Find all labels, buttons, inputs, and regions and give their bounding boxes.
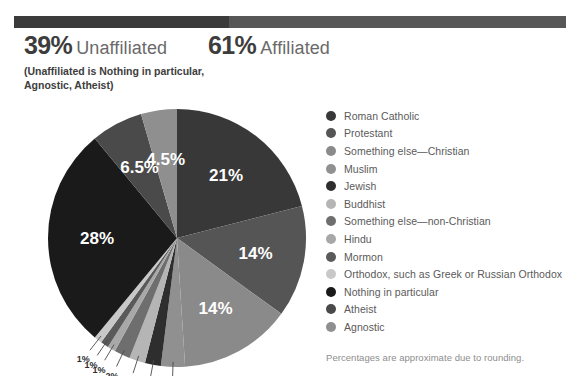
legend-swatch-icon	[326, 322, 336, 332]
chart-footnote: Percentages are approximate due to round…	[326, 352, 524, 363]
legend-item-label: Something else—Christian	[344, 145, 470, 157]
legend-swatch-icon	[326, 199, 336, 209]
stat-unaffiliated-percent: 39%	[24, 31, 72, 59]
legend-item-label: Protestant	[344, 127, 392, 139]
pie-slice-label: 21%	[209, 166, 243, 185]
legend-swatch-icon	[326, 269, 336, 279]
legend-swatch-icon	[326, 252, 336, 262]
legend-item-label: Buddhist	[344, 198, 385, 210]
stat-unaffiliated-label: Unaffiliated	[76, 38, 167, 58]
stat-affiliated-line: 61%Affiliated	[208, 33, 330, 58]
legend-item-label: Roman Catholic	[344, 110, 419, 122]
stat-unaffiliated-note: (Unaffiliated is Nothing in particular, …	[24, 64, 214, 92]
pie-slice-label: 28%	[80, 229, 114, 248]
header: 39%Unaffiliated (Unaffiliated is Nothing…	[0, 33, 583, 93]
summary-bar	[14, 16, 566, 28]
pie-slice-label: 4.5%	[146, 150, 185, 169]
pie-leader-line	[173, 362, 174, 376]
pie-slice-label: 14%	[198, 299, 232, 318]
legend-swatch-icon	[326, 146, 336, 156]
legend-item-label: Something else—non-Christian	[344, 215, 491, 227]
pie-chart-svg: 21%14%14%3%2%2%2%1%1%1%28%6.5%4.5%	[36, 104, 318, 376]
legend-item[interactable]: Something else—non-Christian	[326, 213, 576, 231]
legend-swatch-icon	[326, 128, 336, 138]
legend-swatch-icon	[326, 111, 336, 121]
legend-swatch-icon	[326, 234, 336, 244]
pie-chart: 21%14%14%3%2%2%2%1%1%1%28%6.5%4.5%	[36, 104, 318, 376]
legend-item-label: Atheist	[344, 303, 376, 315]
legend-swatch-icon	[326, 164, 336, 174]
pie-slice-label: 14%	[239, 244, 273, 263]
legend-item-label: Agnostic	[344, 321, 385, 333]
legend-item[interactable]: Protestant	[326, 125, 576, 143]
legend-item-label: Muslim	[344, 163, 378, 175]
legend-swatch-icon	[326, 304, 336, 314]
legend-item-label: Hindu	[344, 233, 372, 245]
legend-swatch-icon	[326, 216, 336, 226]
legend-item-label: Orthodox, such as Greek or Russian Ortho…	[344, 268, 562, 280]
stat-unaffiliated: 39%Unaffiliated (Unaffiliated is Nothing…	[24, 33, 214, 92]
summary-bar-segment-unaffiliated	[14, 16, 229, 28]
legend-item[interactable]: Atheist	[326, 301, 576, 319]
legend-item[interactable]: Hindu	[326, 230, 576, 248]
legend-swatch-icon	[326, 287, 336, 297]
pie-leader-line	[90, 336, 101, 350]
stat-unaffiliated-line: 39%Unaffiliated	[24, 33, 214, 58]
legend-swatch-icon	[326, 181, 336, 191]
pie-slice-label: 1%	[77, 354, 90, 364]
legend-item[interactable]: Mormon	[326, 248, 576, 266]
legend-item[interactable]: Nothing in particular	[326, 283, 576, 301]
legend-item-label: Nothing in particular	[344, 286, 438, 298]
legend-item[interactable]: Something else—Christian	[326, 142, 576, 160]
legend: Roman CatholicProtestantSomething else—C…	[326, 107, 576, 336]
legend-item[interactable]: Orthodox, such as Greek or Russian Ortho…	[326, 265, 576, 283]
legend-item[interactable]: Buddhist	[326, 195, 576, 213]
stat-affiliated-percent: 61%	[208, 31, 256, 59]
stat-affiliated: 61%Affiliated	[208, 33, 330, 58]
legend-item[interactable]: Agnostic	[326, 318, 576, 336]
legend-item[interactable]: Jewish	[326, 177, 576, 195]
legend-item[interactable]: Muslim	[326, 160, 576, 178]
summary-bar-segment-affiliated	[229, 16, 566, 28]
legend-item-label: Jewish	[344, 180, 376, 192]
stat-affiliated-label: Affiliated	[260, 38, 330, 58]
legend-item[interactable]: Roman Catholic	[326, 107, 576, 125]
pie-slice-label: 2%	[105, 371, 118, 376]
legend-item-label: Mormon	[344, 251, 383, 263]
